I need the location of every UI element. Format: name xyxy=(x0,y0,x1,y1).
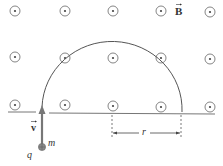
radius-label: r xyxy=(142,127,146,137)
charge-label: q xyxy=(27,150,32,160)
mass-label: m xyxy=(48,138,55,148)
field-dot-icons xyxy=(10,6,215,112)
diagram-canvas xyxy=(0,0,223,166)
field-label: B xyxy=(175,6,182,17)
magnetic-field-diagram: B v m q r xyxy=(0,0,223,166)
velocity-label: v xyxy=(31,123,36,133)
velocity-arrowhead xyxy=(39,105,46,114)
